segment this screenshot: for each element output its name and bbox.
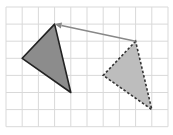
translation-arrow: [55, 23, 136, 42]
original-triangle: [22, 24, 71, 92]
grid: [6, 7, 168, 127]
translation-diagram: [0, 0, 173, 135]
image-triangle: [103, 41, 152, 109]
diagram-canvas: [0, 0, 173, 135]
arrow-shaft: [61, 26, 135, 42]
